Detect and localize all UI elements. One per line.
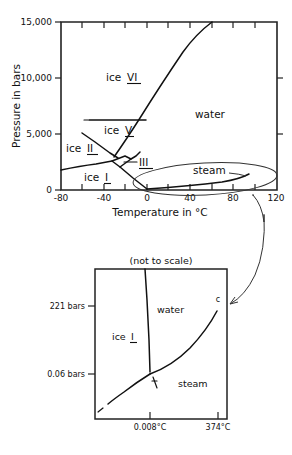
inset-boundary-ice-water bbox=[145, 269, 150, 372]
x-tick-label-minus80: -80 bbox=[54, 193, 69, 203]
phase-diagram-svg: 15,000 10,000 5,000 0 -80 -40 0 40 80 12… bbox=[0, 0, 292, 455]
boundary-vapour-pressure bbox=[147, 174, 249, 189]
label-ice-i: ice bbox=[84, 171, 99, 183]
main-plot: 15,000 10,000 5,000 0 -80 -40 0 40 80 12… bbox=[10, 17, 285, 218]
inset-y-label-006: 0.06 bars bbox=[47, 370, 85, 379]
inset-boundary-vapour bbox=[150, 311, 217, 374]
inset-boundary-sublimation bbox=[108, 374, 150, 404]
inset-label-ice-i-roman: I bbox=[131, 331, 134, 342]
callout-curve bbox=[230, 214, 264, 304]
x-tick-label-40: 40 bbox=[184, 193, 196, 203]
y-tick-label-10000: 10,000 bbox=[21, 73, 53, 83]
inset-left-ticks bbox=[88, 306, 95, 374]
inset-label-steam: steam bbox=[178, 378, 208, 389]
label-ice-ii-roman: II bbox=[87, 142, 93, 154]
boundary-ice-i-ice-ii bbox=[61, 161, 112, 170]
label-ice-v-roman: V bbox=[125, 124, 133, 136]
callout-arrowhead bbox=[230, 297, 238, 304]
inset-note: (not to scale) bbox=[129, 255, 192, 266]
y-tick-label-5000: 5,000 bbox=[26, 129, 52, 139]
callout-connector bbox=[230, 194, 264, 304]
phase-diagram-figure: 15,000 10,000 5,000 0 -80 -40 0 40 80 12… bbox=[0, 0, 292, 455]
inset-label-ice-i: ice bbox=[112, 331, 126, 342]
inset-label-critical-point: c bbox=[216, 295, 220, 304]
steam-label-leader bbox=[229, 173, 246, 176]
y-axis-title: Pressure in bars bbox=[10, 64, 22, 148]
x-tick-label-80: 80 bbox=[227, 193, 239, 203]
inset-x-label-0008: 0.008°C bbox=[134, 423, 167, 432]
label-water: water bbox=[195, 108, 226, 120]
inset-plot: (not to scale) 221 bars 0.06 bars 0.008°… bbox=[47, 255, 231, 432]
label-ice-v: ice bbox=[104, 124, 119, 136]
inset-y-label-221: 221 bars bbox=[50, 302, 85, 311]
inset-boundary-sublimation-dash bbox=[98, 408, 103, 412]
main-left-ticks bbox=[55, 22, 61, 190]
y-tick-label-15000: 15,000 bbox=[21, 17, 53, 27]
inset-plot-frame bbox=[95, 269, 227, 419]
label-ice-vi: ice bbox=[106, 71, 121, 83]
label-ice-vi-roman: VI bbox=[127, 71, 137, 83]
x-axis-title: Temperature in °C bbox=[111, 206, 207, 218]
y-tick-label-0: 0 bbox=[46, 185, 52, 195]
boundary-ice-i-water bbox=[120, 167, 147, 189]
label-ice-iii-roman: III bbox=[139, 156, 148, 168]
callout-stem bbox=[253, 195, 264, 222]
x-tick-label-minus40: -40 bbox=[97, 193, 112, 203]
label-steam: steam bbox=[193, 164, 226, 176]
inset-x-label-374: 374°C bbox=[206, 423, 231, 432]
main-right-ticks bbox=[277, 78, 283, 134]
x-tick-label-0: 0 bbox=[144, 193, 150, 203]
x-tick-label-120: 120 bbox=[267, 193, 284, 203]
label-ice-i-roman: I bbox=[105, 171, 108, 183]
inset-triple-point-arrow bbox=[153, 377, 157, 388]
inset-bottom-ticks bbox=[150, 412, 218, 419]
main-top-ticks bbox=[82, 22, 255, 28]
inset-label-water: water bbox=[157, 304, 184, 315]
label-ice-ii: ice bbox=[66, 142, 81, 154]
